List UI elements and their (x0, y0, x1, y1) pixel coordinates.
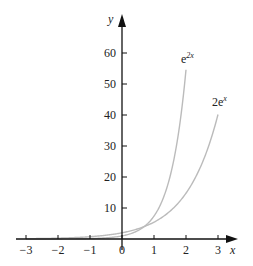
x-tick-label: 3 (215, 243, 221, 257)
y-ticks: 102030405060 (104, 46, 127, 215)
x-tick-label: −2 (52, 243, 65, 257)
label-e2x: e2x (181, 51, 194, 66)
y-tick-label: 40 (104, 108, 116, 122)
exponential-chart: −3−2−10123 102030405060 x y e2x2ex (0, 0, 253, 266)
y-axis-arrow-icon (118, 14, 126, 27)
y-axis-label: y (107, 12, 114, 26)
curve-labels: e2x2ex (181, 51, 227, 109)
y-tick-label: 30 (104, 139, 116, 153)
x-axis-label: x (229, 243, 236, 257)
y-tick-label: 20 (104, 170, 116, 184)
x-tick-label: 0 (119, 243, 125, 257)
label-2ex: 2ex (212, 94, 227, 109)
x-axis-arrow-icon (226, 235, 238, 243)
x-tick-label: −1 (84, 243, 97, 257)
x-tick-label: 1 (151, 243, 157, 257)
y-tick-label: 10 (104, 201, 116, 215)
x-tick-label: 2 (183, 243, 189, 257)
y-tick-label: 60 (104, 46, 116, 60)
x-tick-label: −3 (20, 243, 33, 257)
y-tick-label: 50 (104, 77, 116, 91)
